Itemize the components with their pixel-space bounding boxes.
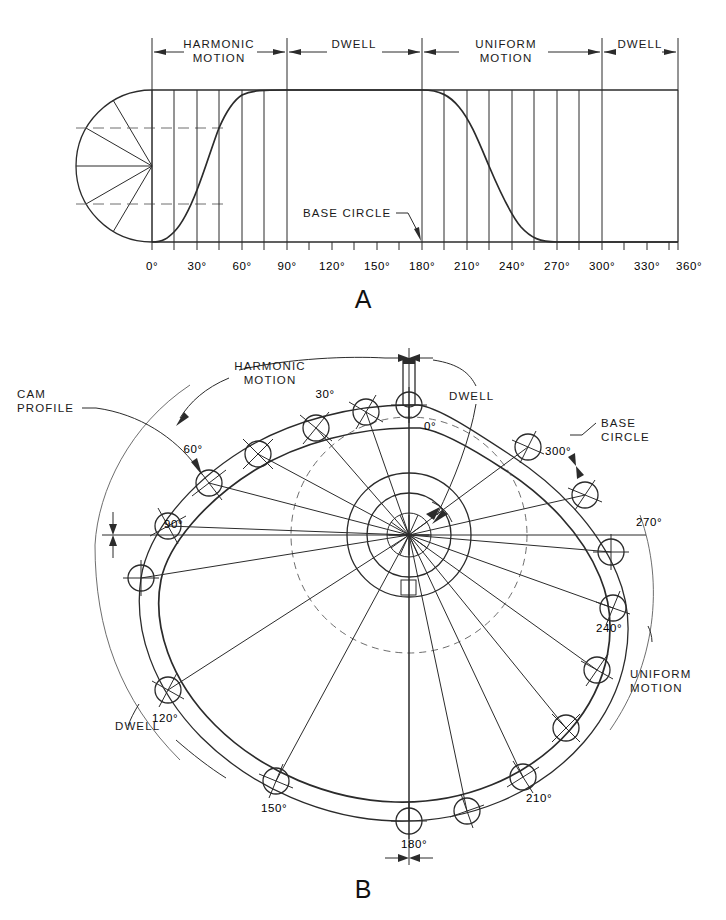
label-uniform-motion-line1: UNIFORM [630,668,691,680]
leader-base-circle: BASE CIRCLE [570,417,650,443]
cam-profile-curve [159,428,610,802]
leader-dwell-top: DWELL [432,360,494,524]
dim-label-uniform-line2: MOTION [480,52,533,64]
angle-label-180: 180° [401,838,427,850]
leader-cam-profile: CAM PROFILE [17,388,202,475]
label-harmonic-motion-line1: HARMONIC [234,360,305,372]
pitch-curve-path [139,405,628,821]
angle-label-300: 300° [545,445,571,457]
dim-dwell-2: DWELL [604,38,676,55]
displacement-curve [152,90,678,242]
angle-label-240: 240° [596,622,622,634]
roller-195deg [450,794,484,828]
label-cam-profile-line2: PROFILE [17,402,74,414]
x-tick-label-90: 90° [277,260,296,272]
panel-a-caption: A [355,285,372,313]
label-uniform-motion-line2: MOTION [630,682,683,694]
roller-240deg [581,654,613,686]
pitch-curve [139,405,628,821]
base-circle-label: BASE CIRCLE [303,207,391,219]
panel-a-svg: HARMONIC MOTION DWELL UNIF [0,0,726,330]
x-tick-label-360: 360° [676,260,702,272]
roller-210deg [507,761,539,793]
dimension-band: HARMONIC MOTION DWELL UNIF [152,38,678,90]
label-cam-profile-line1: CAM [17,388,46,400]
dim-label-dwell2: DWELL [617,38,662,50]
annotation-base-circle: BASE CIRCLE [303,207,421,241]
panel-b-svg: HARMONIC MOTION DWELL BASE CIRCLE CAM [0,330,726,920]
panel-b-caption: B [355,875,372,903]
x-tick-label-330: 330° [634,260,660,272]
x-tick-label-210: 210° [454,260,480,272]
roller-300deg [512,431,544,463]
dim-harmonic-motion: HARMONIC MOTION [154,38,285,64]
ordinate-grid-lines [174,90,602,242]
roller-45deg [243,439,273,469]
dim-dwell-1: DWELL [289,38,420,55]
radial-layout-lines [141,405,613,821]
roller-15deg [349,395,383,429]
angle-label-270: 270° [636,516,662,528]
displacement-frame [152,90,678,242]
angle-label-30: 30° [315,388,334,400]
x-tick-label-30: 30° [187,260,206,272]
angle-label-60: 60° [183,443,202,455]
x-tick-label-60: 60° [232,260,251,272]
leader-uniform-motion: UNIFORM MOTION [630,626,691,694]
angle-label-0: 0° [424,420,436,432]
angle-label-210: 210° [526,792,552,804]
angle-label-150: 150° [261,802,287,814]
dim-label-uniform-line1: UNIFORM [475,38,536,50]
dim-label-harmonic-line2: MOTION [193,52,246,64]
roller-285deg [568,480,602,510]
label-dwell-top: DWELL [449,390,494,402]
roller-225deg [552,714,580,742]
angle-label-120: 120° [152,712,178,724]
x-tick-label-300: 300° [589,260,615,272]
panel-a-displacement-diagram: HARMONIC MOTION DWELL UNIF [0,0,726,330]
cam-diagram-figure: HARMONIC MOTION DWELL UNIF [0,0,726,920]
panel-b-cam-profile: HARMONIC MOTION DWELL BASE CIRCLE CAM [0,330,726,920]
x-tick-label-120: 120° [319,260,345,272]
roller-90deg [123,560,159,596]
angle-labels: 0° 30° 60° 90° 120° 150° 180° 210° 240° … [152,388,662,850]
x-tick-label-240: 240° [499,260,525,272]
label-base-circle-line1: BASE [601,417,636,429]
cam-profile-path [159,428,610,802]
x-axis-ticks: 0° 30° 60° 90° 120° 150° 180° 210° 240° … [146,242,702,272]
angle-label-90: 90° [164,518,183,530]
x-tick-label-0: 0° [146,260,158,272]
label-base-circle-line2: CIRCLE [601,431,650,443]
x-tick-label-270: 270° [544,260,570,272]
dim-label-harmonic-line1: HARMONIC [183,38,254,50]
x-tick-label-180: 180° [409,260,435,272]
label-harmonic-motion-line2: MOTION [244,374,297,386]
dim-label-dwell1: DWELL [331,38,376,50]
x-tick-label-150: 150° [364,260,390,272]
dim-uniform-motion: UNIFORM MOTION [424,38,600,64]
sector-guide-arcs [95,385,653,760]
